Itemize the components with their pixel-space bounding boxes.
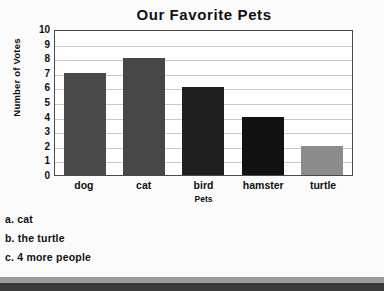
x-axis-title: Pets — [54, 194, 353, 204]
y-axis-title: Number of Votes — [11, 38, 22, 118]
y-axis-tick-label: 2 — [32, 142, 50, 152]
bottom-band-dark — [0, 283, 384, 291]
chart-title: Our Favorite Pets — [54, 6, 354, 23]
x-axis-tick-label: turtle — [293, 179, 353, 193]
y-axis-tick-label: 7 — [32, 69, 50, 79]
plot-area — [54, 30, 353, 176]
bar-turtle — [301, 146, 343, 175]
y-axis-tick-label: 6 — [32, 83, 50, 93]
bar-hamster — [242, 117, 284, 175]
y-axis-tick-labels: 012345678910 — [32, 30, 50, 176]
answer-list: a. catb. the turtlec. 4 more people — [5, 210, 335, 267]
bar-dog — [64, 73, 106, 175]
y-axis-tick-label: 3 — [32, 127, 50, 137]
bars-group — [55, 31, 352, 175]
x-axis-tick-label: cat — [114, 179, 174, 193]
x-axis-tick-label: bird — [174, 179, 234, 193]
bar-chart-figure: Our Favorite Pets Number of Votes 012345… — [0, 0, 384, 205]
y-axis-tick-label: 1 — [32, 156, 50, 166]
y-axis-tick-label: 10 — [32, 25, 50, 35]
answer-line: a. cat — [5, 210, 335, 229]
bar-cat — [123, 58, 165, 175]
y-axis-tick-label: 8 — [32, 54, 50, 64]
x-axis-tick-labels: dogcatbirdhamsterturtle — [54, 179, 353, 193]
y-axis-tick-label: 4 — [32, 113, 50, 123]
x-axis-tick-label: dog — [54, 179, 114, 193]
answer-line: c. 4 more people — [5, 248, 335, 267]
y-axis-tick-label: 5 — [32, 98, 50, 108]
y-axis-tick-label: 0 — [32, 171, 50, 181]
bar-bird — [182, 87, 224, 175]
answer-line: b. the turtle — [5, 229, 335, 248]
y-axis-tick-label: 9 — [32, 40, 50, 50]
x-axis-tick-label: hamster — [233, 179, 293, 193]
